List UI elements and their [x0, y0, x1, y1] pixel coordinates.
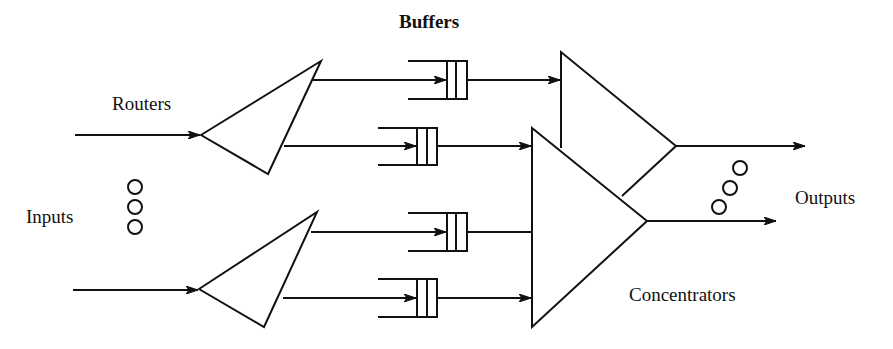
ellipsis-dot: [712, 200, 726, 214]
concentrators-label: Concentrators: [629, 285, 736, 304]
router-1: [75, 61, 446, 174]
router-2-triangle: [199, 212, 317, 327]
outputs-ellipsis: [712, 161, 747, 214]
ellipsis-dot: [128, 220, 142, 234]
switch-architecture-diagram: Buffers Routers Inputs Outputs Concentra…: [0, 0, 893, 349]
ellipsis-dot: [733, 161, 747, 175]
inputs-label: Inputs: [26, 207, 74, 226]
inputs-ellipsis: [128, 180, 142, 234]
routers-label: Routers: [112, 94, 171, 113]
buffers-label: Buffers: [399, 12, 459, 31]
outputs-label: Outputs: [795, 188, 855, 207]
concentrator-1: [561, 52, 805, 196]
concentrator-1-outline: [561, 52, 676, 196]
ellipsis-dot: [128, 180, 142, 194]
diagram-canvas: [0, 0, 893, 349]
router-1-triangle: [201, 61, 321, 174]
ellipsis-dot: [128, 200, 142, 214]
ellipsis-dot: [723, 181, 737, 195]
